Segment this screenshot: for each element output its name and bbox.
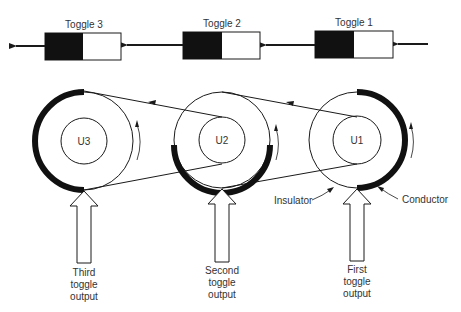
first-output-line3: output (343, 288, 371, 299)
third-output-line3: output (70, 291, 98, 302)
second-output-line2: toggle (208, 277, 236, 288)
u2-label: U2 (216, 135, 229, 146)
third-output-line1: Third (73, 267, 96, 278)
toggle-2: Toggle 2 (183, 18, 260, 59)
conductor-label: Conductor (402, 194, 449, 205)
commutator-diagram: Toggle 1 Toggle 2 Toggle 3 (0, 0, 461, 312)
first-output-line2: toggle (343, 276, 371, 287)
second-output-arrow-icon (208, 189, 236, 262)
insulator-label: Insulator (274, 195, 313, 206)
toggle-1: Toggle 1 (315, 17, 393, 58)
output-arrows (70, 189, 371, 263)
u3-label: U3 (78, 136, 91, 147)
u1-label: U1 (351, 135, 364, 146)
toggle-1-label: Toggle 1 (335, 17, 373, 28)
second-output-line1: Second (205, 265, 239, 276)
toggle-3-label: Toggle 3 (65, 19, 103, 30)
second-output-line3: output (208, 289, 236, 300)
first-output-arrow-icon (343, 189, 371, 261)
toggle-3: Toggle 3 (45, 19, 121, 60)
conductor-segment (174, 145, 270, 193)
disc-u2: U2 (174, 92, 278, 193)
rotation-arrow-icon (411, 126, 413, 158)
disc-u1: U1 (309, 92, 413, 188)
first-output-line1: First (347, 264, 367, 275)
output-labels: Third toggle output Second toggle output… (70, 264, 371, 302)
disc-u3: U3 (35, 92, 140, 190)
toggle-2-label: Toggle 2 (203, 18, 241, 29)
rotation-arrow-icon (276, 128, 278, 160)
third-output-line2: toggle (70, 279, 98, 290)
third-output-arrow-icon (70, 191, 98, 263)
toggle-chain: Toggle 1 Toggle 2 Toggle 3 (16, 17, 428, 60)
rotation-arrow-icon (137, 124, 140, 160)
